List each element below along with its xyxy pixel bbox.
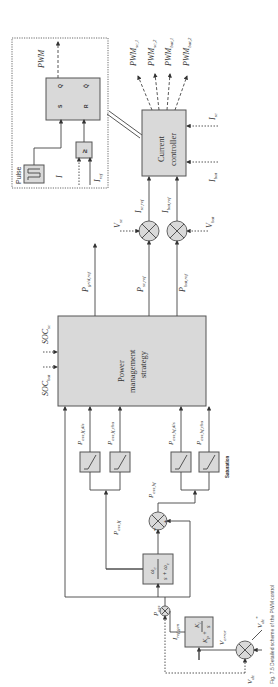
vdc-ref-diag	[252, 630, 262, 640]
p-ess-hf-cha-label: Pess,hf,cha	[195, 420, 205, 446]
pwm-bat1-label: PWMbat,1	[164, 38, 175, 67]
pms-line1: Power	[116, 360, 126, 382]
p-ess-lf-label: Pess,lf	[112, 520, 122, 536]
figure-caption: Fig. 7.5 Detailed scheme of the PWM cont…	[269, 585, 275, 684]
iref-input-label: Iref	[93, 173, 103, 183]
vdc-sum-out-line	[199, 650, 236, 660]
isc-ref-label: Isc,ref	[134, 199, 145, 214]
connector-line-a	[109, 111, 142, 135]
isc-label: Isc	[208, 112, 218, 121]
p-ess-hf-dis-label: Pess,hf,dis	[167, 422, 177, 446]
hf-split-line	[181, 472, 209, 490]
lpf-to-lf-line	[106, 549, 143, 569]
i-input-label: I	[55, 175, 64, 179]
pwm-sc1-arrow	[138, 76, 152, 110]
pulse-generator-block	[24, 165, 44, 183]
control-diagram: S R Q Q̄ PWM Pulse ≥ I Iref Current cont…	[0, 0, 278, 687]
saturation-hf-cha	[199, 452, 219, 472]
ibat-ref-label: Ibat,ref	[161, 197, 172, 214]
sr-q-label: Q	[57, 84, 63, 88]
hf-sum-plus: +	[162, 520, 168, 523]
p-bat-ref-label: Pbat,ref	[178, 273, 189, 293]
pwm-sc2-arrow	[155, 74, 159, 110]
p-ess-hf-label: Pess,hf	[147, 482, 157, 499]
p-sc-ref-label: Psc,ref	[136, 276, 147, 293]
ibat-label: Ibat	[208, 172, 218, 183]
pi-controller-block	[185, 617, 213, 647]
saturation-lf-cha	[110, 452, 130, 472]
vdc-label: Vdc	[246, 674, 255, 684]
saturation-hf-dis	[171, 452, 191, 472]
p-ess-label: Pess	[152, 606, 161, 617]
comparator-symbol: ≥	[81, 149, 88, 153]
pms-line3: strategy	[138, 350, 148, 378]
pulse-to-s-line	[34, 120, 61, 165]
current-controller-line1: Current	[156, 135, 166, 162]
hf-sum-minus: −	[152, 527, 158, 531]
saturation-lf-dis	[80, 452, 100, 472]
vdc-ref-label: Vdc*	[255, 616, 265, 628]
current-controller-line2: controller	[168, 133, 178, 166]
vbat-label: Vbat	[205, 216, 215, 228]
p-ess-out-line	[158, 597, 165, 606]
pwm-sc1-label: PWMsc,1	[129, 40, 140, 67]
p-grid-ref-label: Pgrid,ref	[81, 272, 92, 293]
lf-split-line	[90, 472, 120, 490]
p-ess-lf-cha-label: Pess,lf,cha	[106, 422, 116, 446]
pwm-output-label: PWM	[37, 48, 46, 69]
pulse-label: Pulse	[15, 166, 22, 184]
sr-flipflop-block	[46, 78, 100, 120]
vsc-label: Vsc	[113, 218, 123, 228]
p-ess-hf-line	[158, 491, 195, 512]
sr-r-label: R	[83, 104, 89, 108]
v-error-label: Verror	[218, 630, 227, 645]
sr-qbar-label: Q̄	[83, 84, 89, 88]
saturation-blocks	[80, 407, 219, 490]
soc-bat-label: SOCbat	[41, 374, 51, 396]
soc-sc-label: SOCsc	[41, 324, 51, 344]
saturation-label: Saturation	[225, 455, 230, 478]
pwm-sc2-label: PWMsc,2	[147, 39, 158, 67]
pwm-bat2-label: PWMbat,2	[182, 37, 193, 67]
pwm-bat2-arrow	[175, 76, 187, 110]
pms-line2: management	[127, 349, 137, 393]
p-ess-lf-dis-label: Pess,lf,dis	[76, 423, 86, 446]
connector-line-b	[107, 114, 140, 138]
pwm-bat1-arrow	[167, 74, 170, 110]
